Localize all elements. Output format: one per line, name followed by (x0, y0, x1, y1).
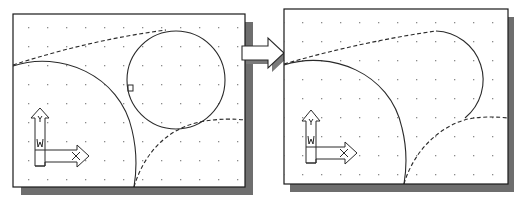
before-panel (13, 14, 253, 195)
after-panel (284, 9, 514, 192)
trim-before-after-figure (0, 0, 524, 201)
